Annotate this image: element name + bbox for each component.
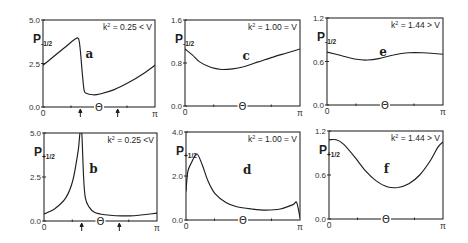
y-tick-label: 1.2 (315, 127, 327, 136)
y-tick-label: 0.0 (172, 216, 184, 225)
panel-letter: f (384, 162, 390, 176)
x-tick-label-zero: 0 (183, 107, 188, 117)
x-tick-label-zero: 0 (41, 108, 46, 118)
y-tick-label: 5.0 (30, 129, 42, 138)
y-tick-label: 0.6 (315, 171, 327, 180)
data-curve (43, 38, 155, 95)
x-tick-label-pi: π (297, 108, 303, 118)
x-tick-label-pi: π (154, 223, 160, 233)
y-tick-label: 0.0 (29, 103, 41, 112)
y-axis-label: P+1/2 (319, 143, 340, 158)
condition-label: k2 = 0.25 < V (103, 22, 152, 33)
condition-label: k2 = 1.00 = V (248, 134, 297, 145)
panel-e: 1.20.60.00πΘk2 = 1.44 > VP-1/2e (313, 14, 446, 117)
x-tick-label-pi: π (152, 109, 158, 119)
condition-label: k2 = 0.25 <V (107, 135, 154, 146)
y-tick-label: 0.6 (313, 58, 325, 67)
condition-label: k2 = 1.44 > V (391, 133, 440, 144)
y-tick-label: 1.2 (313, 14, 325, 23)
panel-letter: c (243, 49, 250, 63)
panel-letter: d (243, 163, 252, 177)
panel-letter: a (86, 47, 94, 61)
y-tick-label: 0.0 (30, 217, 42, 226)
y-tick-label: 5.0 (29, 16, 41, 25)
x-tick-label-zero: 0 (325, 106, 330, 116)
panel-letter: b (89, 162, 97, 176)
plot-frame (44, 133, 157, 221)
y-tick-label: 2.5 (29, 60, 41, 69)
panel-f: 1.20.60.00πΘk2 = 1.44 > VP+1/2f (315, 127, 446, 231)
y-tick-label: 2.5 (30, 173, 42, 182)
theta-axis-symbol: Θ (381, 100, 389, 111)
panel-c: 1.60.80.00πΘk2 = 1.00 = VP-1/2c (171, 16, 303, 118)
y-tick-label: 0.0 (171, 102, 183, 111)
panel-a: 5.02.50.00πΘk2 = 0.25 < VP-1/2a (29, 16, 158, 119)
x-tick-label-pi: π (297, 222, 303, 232)
figure-canvas: 5.02.50.00πΘk2 = 0.25 < VP-1/2a5.02.50.0… (0, 0, 468, 243)
x-tick-label-pi: π (440, 221, 446, 231)
y-tick-label: 0.0 (315, 215, 327, 224)
y-tick-label: 0.0 (313, 101, 325, 110)
x-tick-label-zero: 0 (327, 220, 332, 230)
theta-axis-symbol: Θ (239, 215, 247, 226)
panel-b: 5.02.50.00πΘk2 = 0.25 <VP+1/2b (30, 129, 160, 233)
y-tick-label: 0.8 (171, 59, 183, 68)
theta-axis-symbol: Θ (95, 102, 103, 113)
panel-d: 4.02.00.00πΘk2 = 1.00 = VP+1/2d (172, 128, 303, 232)
theta-axis-symbol: Θ (97, 216, 105, 227)
y-tick-label: 1.6 (171, 16, 183, 25)
theta-axis-symbol: Θ (382, 214, 390, 225)
plot-frame (327, 18, 443, 105)
x-tick-label-zero: 0 (42, 222, 47, 232)
y-axis-label: P+1/2 (34, 145, 55, 160)
y-tick-label: 2.0 (172, 172, 184, 181)
condition-label: k2 = 1.00 = V (248, 22, 297, 33)
x-tick-label-pi: π (440, 107, 446, 117)
y-axis-label: P+1/2 (176, 144, 197, 159)
x-tick-label-zero: 0 (184, 221, 189, 231)
condition-label: k2 = 1.44 > V (391, 20, 440, 31)
y-tick-label: 4.0 (172, 128, 184, 137)
theta-axis-symbol: Θ (239, 101, 247, 112)
panel-letter: e (379, 45, 387, 59)
